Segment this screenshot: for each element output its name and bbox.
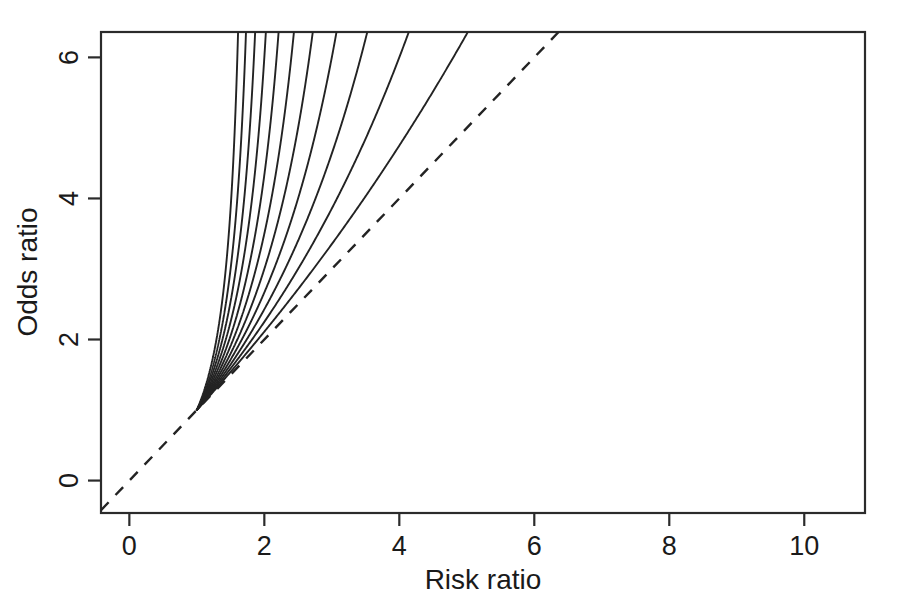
y-tick-label: 2 [54,332,84,347]
y-tick-label: 4 [54,191,84,206]
x-tick-label: 0 [122,531,137,561]
x-tick-label: 10 [789,531,819,561]
x-tick-label: 2 [257,531,272,561]
x-tick-label: 4 [392,531,407,561]
x-axis-title: Risk ratio [425,564,542,595]
y-axis-title: Odds ratio [12,207,43,336]
x-tick-label: 8 [662,531,677,561]
x-tick-label: 6 [527,531,542,561]
odds-ratio-vs-risk-ratio-chart: 0246810 0246 Risk ratio Odds ratio [0,0,898,614]
chart-background [0,0,898,614]
y-tick-label: 0 [54,473,84,488]
y-tick-label: 6 [54,50,84,65]
figure-container: 0246810 0246 Risk ratio Odds ratio [0,0,898,614]
